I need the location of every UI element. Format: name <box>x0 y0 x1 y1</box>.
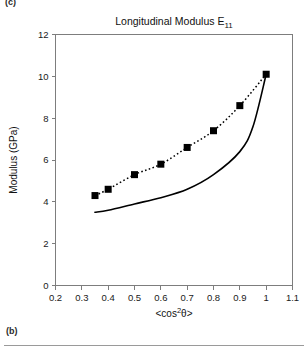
data-point-marker <box>105 186 112 193</box>
data-point-marker <box>184 144 191 151</box>
x-axis-tick-label: 0.8 <box>207 292 220 303</box>
figure-root: (c) 0246810120.20.30.40.50.60.70.80.911.… <box>0 0 308 351</box>
x-axis-tick-label: 0.5 <box>128 292 141 303</box>
data-point-marker <box>92 192 99 199</box>
x-axis-tick-label: 0.2 <box>49 292 62 303</box>
x-axis-tick-label: 0.9 <box>233 292 246 303</box>
x-axis-tick-label: 0.3 <box>75 292 88 303</box>
y-axis-tick-label: 6 <box>43 154 48 165</box>
chart-canvas: 0246810120.20.30.40.50.60.70.80.911.1Lon… <box>0 0 308 351</box>
x-axis-title: <cos2θ> <box>156 306 193 319</box>
y-axis-tick-label: 10 <box>38 71 49 82</box>
y-axis-tick-label: 2 <box>43 238 48 249</box>
x-axis-tick-label: 1.1 <box>286 292 299 303</box>
data-point-marker <box>210 127 217 134</box>
x-axis-tick-label: 0.4 <box>102 292 115 303</box>
y-axis-tick-label: 4 <box>43 196 48 207</box>
x-axis-tick-label: 1 <box>264 292 269 303</box>
data-point-marker <box>157 161 164 168</box>
y-axis-tick-label: 0 <box>43 280 48 291</box>
series-line-measured-modulus <box>95 74 266 195</box>
data-point-marker <box>131 171 138 178</box>
plot-frame <box>56 35 293 286</box>
y-axis-tick-label: 8 <box>43 113 48 124</box>
footer-divider <box>4 345 304 346</box>
panel-label-b: (b) <box>6 326 18 336</box>
chart-title: Longitudinal Modulus E11 <box>115 15 233 30</box>
x-axis-tick-label: 0.6 <box>154 292 167 303</box>
y-axis-tick-label: 12 <box>38 29 49 40</box>
x-axis-tick-label: 0.7 <box>181 292 194 303</box>
series-line-model-prediction <box>95 74 266 212</box>
data-point-marker <box>236 102 243 109</box>
y-axis-title: Modulus (GPa) <box>8 126 19 193</box>
